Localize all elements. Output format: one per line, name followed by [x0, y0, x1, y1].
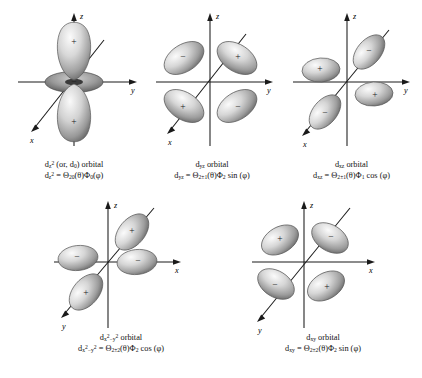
lobe-sign: − — [180, 52, 185, 62]
lobe-sign: + — [277, 234, 282, 244]
lobe-sign: + — [235, 52, 240, 62]
orbital-panel-dxz: − + − + z y x dxz orbital dxz = Θ2±1(θ)Φ… — [281, 4, 422, 182]
orbital-formula: dx2−y2 = Θ2±2(θ)Φ2 cos (φ) — [36, 343, 206, 354]
orbital-word: orbital — [346, 160, 368, 169]
caption-dz2: dz2 (or, d0) orbital dz2 = Θ20(θ)Φ0(φ) — [0, 159, 148, 182]
axis-label-y: y — [266, 86, 271, 95]
caption-dxy: dxy orbital dxy = Θ2±2(θ)Φ2 sin (φ) — [238, 332, 408, 355]
axis-label-x: x — [167, 138, 172, 147]
axis-arrow-y — [129, 79, 137, 85]
axis-label-z: z — [309, 201, 314, 210]
lobe-sign: − — [322, 108, 327, 118]
axis-arrow-x — [367, 259, 375, 265]
orbital-symbol: dz2 (or, d0) — [45, 160, 80, 169]
axis-arrow-z — [105, 201, 111, 209]
axis-arrow-y — [257, 314, 265, 322]
axis-arrow-x — [173, 259, 181, 265]
axis-arrow-x — [302, 128, 310, 136]
axis-label-x: x — [29, 136, 34, 145]
axis-label-z: z — [79, 12, 84, 21]
lobe-sign: + — [372, 90, 377, 100]
lobe-sign: + — [83, 288, 88, 298]
lobe-up — [57, 22, 90, 80]
lobe-sign: + — [71, 117, 76, 127]
axis-label-x: x — [174, 266, 179, 275]
orbital-word: orbital — [207, 160, 229, 169]
axis-arrow-y — [402, 79, 410, 85]
orbital-formula: dz2 = Θ20(θ)Φ0(φ) — [0, 170, 148, 181]
axis-arrow-y — [61, 310, 69, 318]
orbital-panel-dx2y2: + − − + z x y dx2−y2 orbital dx2−y2 = Θ2… — [36, 200, 206, 355]
lobe-sign: + — [180, 102, 185, 112]
orbital-diagram-dx2y2: + − − + z x y — [36, 200, 206, 332]
axis-label-z: z — [113, 201, 118, 210]
axis-label-y: y — [61, 322, 66, 331]
orbital-diagram-dxy: + − − + z x y — [238, 200, 408, 332]
lobe-sign: − — [135, 256, 140, 266]
orbital-panel-dz2: + + − z y x dz2 (or, d0) orbital dz2 = Θ… — [0, 4, 148, 182]
axis-arrow-z — [71, 13, 77, 21]
lobe-sign: + — [129, 226, 134, 236]
axis-arrow-z — [344, 13, 350, 21]
axis-arrow-y — [265, 79, 273, 85]
lobe-sign: − — [74, 252, 79, 262]
axis-label-z: z — [215, 12, 220, 21]
lobe-sign: + — [317, 64, 322, 74]
caption-dxz: dxz orbital dxz = Θ2±1(θ)Φ1 cos (φ) — [281, 159, 422, 182]
axis-label-y: y — [403, 86, 408, 95]
orbital-symbol: dxy — [306, 333, 316, 342]
axis-arrow-z — [301, 201, 307, 209]
lobe-sign: − — [235, 102, 240, 112]
axis-arrow-z — [207, 13, 213, 21]
orbital-symbol: dx2−y2 — [100, 333, 119, 342]
caption-dyz: dyz orbital dyz = Θ2±1(θ)Φ2 sin (φ) — [142, 159, 282, 182]
orbital-formula: dyz = Θ2±1(θ)Φ2 sin (φ) — [142, 170, 282, 181]
orbital-diagram-dz2: + + − z y x — [0, 4, 148, 159]
lobe-sign: − — [272, 280, 277, 290]
lobe-sign: − — [328, 232, 333, 242]
axis-arrow-x — [167, 126, 175, 134]
orbital-diagram-dxz: − + − + z y x — [281, 4, 422, 159]
orbital-word: orbital — [318, 333, 340, 342]
axis-arrow-x — [31, 124, 39, 132]
axis-label-z: z — [352, 12, 357, 21]
orbital-panel-dyz: − + + − z y x dyz orbital dyz = Θ2±1(θ)Φ… — [142, 4, 282, 182]
axes-dxz — [293, 18, 405, 146]
lobe-sign: + — [324, 282, 329, 292]
axis-label-x: x — [302, 140, 307, 149]
orbital-formula: dxz = Θ2±1(θ)Φ1 cos (φ) — [281, 170, 422, 181]
caption-dx2y2: dx2−y2 orbital dx2−y2 = Θ2±2(θ)Φ2 cos (φ… — [36, 332, 206, 355]
lobe-sign: − — [71, 77, 76, 87]
lobe-sign: + — [71, 37, 76, 47]
axis-label-y: y — [130, 86, 135, 95]
axes-dyz — [156, 18, 268, 146]
axis-label-x: x — [368, 266, 373, 275]
axes-dxy — [252, 206, 370, 328]
orbital-word: orbital — [121, 333, 143, 342]
axis-label-y: y — [257, 326, 262, 335]
orbital-word: orbital — [82, 160, 104, 169]
orbital-panel-dxy: + − − + z x y dxy orbital dxy = Θ2±2(θ)Φ… — [238, 200, 408, 355]
orbital-diagram-dyz: − + + − z y x — [142, 4, 282, 159]
orbital-symbol: dyz — [195, 160, 204, 169]
orbital-formula: dxy = Θ2±2(θ)Φ2 sin (φ) — [238, 343, 408, 354]
d-orbital-figure: + + − z y x dz2 (or, d0) orbital dz2 = Θ… — [0, 0, 422, 378]
orbital-symbol: dxz — [335, 160, 344, 169]
lobe-sign: − — [366, 46, 371, 56]
